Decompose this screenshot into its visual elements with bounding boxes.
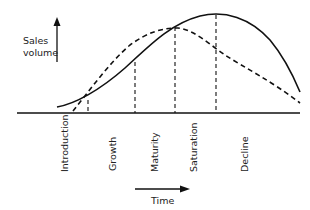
stage-dividers [88,15,216,113]
y-axis-label-line1: Sales [23,35,48,46]
y-axis-label-line2: volume [23,47,58,58]
time-arrow [135,186,190,193]
stage-label-maturity: Maturity [149,132,160,172]
x-axis-label: Time [150,195,174,206]
arrow-right-icon [180,186,190,193]
stage-label-introduction: Introduction [59,114,70,172]
stage-label-growth: Growth [107,137,118,171]
sales-curve-dashed [73,28,300,111]
stage-label-saturation: Saturation [188,122,199,172]
arrow-up-icon [54,17,61,26]
stage-label-decline: Decline [239,136,250,172]
product-life-cycle-diagram: Sales volume Introduction Growth Maturit… [0,0,310,210]
